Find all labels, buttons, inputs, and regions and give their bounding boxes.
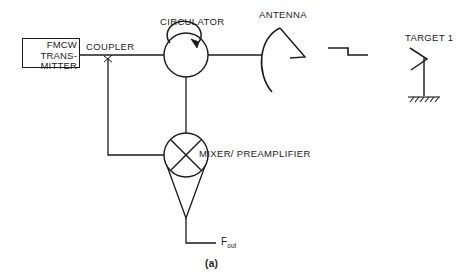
output-signal-subscript: out [227, 242, 236, 249]
mixer-label: MIXER/ PREAMPLIFIER [199, 148, 311, 159]
transmitter-block: FMCW TRANS- MITTER [22, 38, 80, 68]
output-signal-label: Fout [221, 236, 236, 251]
transmitter-label: FMCW TRANS- MITTER [23, 40, 79, 72]
antenna-reflector [262, 28, 280, 92]
circulator-label: CIRCULATOR [160, 16, 224, 27]
wire-coupler-to-mixer [108, 58, 168, 155]
transmitter-label-line-3: MITTER [23, 61, 77, 72]
antenna-label: ANTENNA [259, 9, 307, 20]
target-ground-hatch-icon [408, 97, 440, 102]
figure-canvas: FMCW TRANS- MITTER COUPLER CIRCULATOR AN… [0, 0, 476, 277]
target-label: TARGET 1 [405, 32, 453, 43]
antenna-feed-arm [280, 28, 305, 58]
figure-caption: (a) [205, 258, 218, 269]
transmitter-label-line-1: FMCW [23, 40, 77, 51]
coupler-label: COUPLER [86, 41, 134, 52]
propagation-wave-icon [328, 48, 368, 55]
circulator-circle [164, 33, 208, 77]
wire-output-fout [186, 218, 216, 243]
